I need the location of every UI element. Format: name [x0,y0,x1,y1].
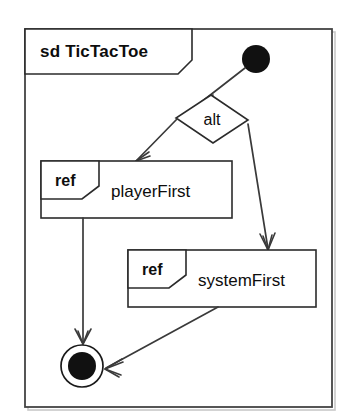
decision-node-label: alt [204,111,221,128]
initial-node [242,45,270,73]
frame-title: sd TicTacToe [40,42,148,61]
interaction-use-label-system: systemFirst [198,271,285,290]
final-node-core [68,352,96,380]
ref-tag-label-system: ref [142,261,163,278]
diagram-canvas: sd TicTacToe alt ref playerFirst ref sys… [0,0,354,419]
ref-tag-label-player: ref [55,172,76,189]
interaction-use-label-player: playerFirst [111,182,191,201]
uml-interaction-overview-diagram: sd TicTacToe alt ref playerFirst ref sys… [0,0,354,419]
